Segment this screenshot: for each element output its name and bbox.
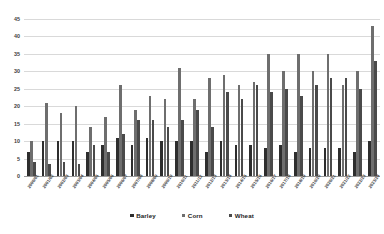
bar-wheat <box>93 145 96 176</box>
bar-wheat <box>226 92 229 176</box>
y-axis-tick-label: 20 <box>14 103 20 109</box>
bar-groups <box>24 19 380 176</box>
x-axis-labels: 2000/012001/022002/032003/042004/052005/… <box>24 178 380 208</box>
bar-wheat <box>315 85 318 176</box>
bar-wheat <box>285 89 288 176</box>
bar-group <box>128 19 143 176</box>
bar-group <box>83 19 98 176</box>
bar-group <box>143 19 158 176</box>
bar-group <box>98 19 113 176</box>
bar-wheat <box>241 99 244 176</box>
x-axis-tick: 2017/18 <box>276 178 291 208</box>
x-axis-tick: 2023/24 <box>365 178 380 208</box>
bar-group <box>350 19 365 176</box>
bar-wheat <box>359 89 362 176</box>
x-axis-tick: 2000/01 <box>24 178 39 208</box>
x-axis-tick: 2012/13 <box>202 178 217 208</box>
bar-group <box>335 19 350 176</box>
bar-group <box>276 19 291 176</box>
x-axis-tick: 2018/19 <box>291 178 306 208</box>
legend-item-corn[interactable]: Corn <box>182 212 203 219</box>
chart-legend: BarleyCornWheat <box>0 212 384 219</box>
x-axis-tick: 2015/16 <box>246 178 261 208</box>
y-axis-tick-label: 40 <box>14 33 20 39</box>
bar-wheat <box>330 78 333 176</box>
bar-wheat <box>345 78 348 176</box>
bar-group <box>172 19 187 176</box>
bar-wheat <box>211 127 214 176</box>
plot-area <box>24 19 380 176</box>
legend-label: Barley <box>136 212 156 219</box>
x-axis-tick: 2021/22 <box>335 178 350 208</box>
y-axis-tick-label: 5 <box>17 156 20 162</box>
x-axis-tick: 2011/12 <box>187 178 202 208</box>
x-axis-tick: 2022/23 <box>350 178 365 208</box>
bar-wheat <box>122 134 125 176</box>
x-axis-tick: 2005/06 <box>98 178 113 208</box>
y-axis-tick-label: 10 <box>14 138 20 144</box>
x-axis-tick: 2003/04 <box>68 178 83 208</box>
y-axis-tick-label: 30 <box>14 68 20 74</box>
x-axis-tick: 2019/20 <box>306 178 321 208</box>
bar-group <box>113 19 128 176</box>
legend-swatch-icon <box>182 214 186 218</box>
legend-swatch-icon <box>229 214 233 218</box>
x-axis-tick: 2020/21 <box>321 178 336 208</box>
y-axis-tick-label: 15 <box>14 121 20 127</box>
bar-wheat <box>167 127 170 176</box>
bar-group <box>291 19 306 176</box>
y-axis-tick-label: 35 <box>14 51 20 57</box>
bar-group <box>54 19 69 176</box>
x-axis-tick: 2014/15 <box>232 178 247 208</box>
x-axis-tick: 2009/10 <box>157 178 172 208</box>
bar-group <box>321 19 336 176</box>
x-axis-tick: 2007/08 <box>128 178 143 208</box>
bar-group <box>306 19 321 176</box>
bar-wheat <box>374 61 377 176</box>
bar-wheat <box>152 120 155 176</box>
x-axis-tick: 2008/09 <box>143 178 158 208</box>
bar-group <box>68 19 83 176</box>
bar-wheat <box>107 152 110 176</box>
x-axis-tick: 2016/17 <box>261 178 276 208</box>
bar-group <box>187 19 202 176</box>
bar-group <box>232 19 247 176</box>
x-axis-tick: 2001/02 <box>39 178 54 208</box>
bar-group <box>261 19 276 176</box>
bar-group <box>365 19 380 176</box>
bar-wheat <box>137 120 140 176</box>
y-axis-tick-label: 25 <box>14 86 20 92</box>
bar-wheat <box>270 92 273 176</box>
x-axis-tick: 2010/11 <box>172 178 187 208</box>
bar-group <box>157 19 172 176</box>
bar-group <box>24 19 39 176</box>
bar-group <box>39 19 54 176</box>
bar-wheat <box>300 96 303 176</box>
x-axis-tick: 2013/14 <box>217 178 232 208</box>
legend-item-barley[interactable]: Barley <box>130 212 156 219</box>
legend-label: Corn <box>188 212 203 219</box>
bar-chart: 051015202530354045 2000/012001/022002/03… <box>0 0 384 234</box>
bar-wheat <box>181 120 184 176</box>
bar-wheat <box>256 85 259 176</box>
y-axis-tick-label: 45 <box>14 16 20 22</box>
legend-label: Wheat <box>235 212 254 219</box>
bar-group <box>202 19 217 176</box>
bar-wheat <box>196 110 199 176</box>
legend-item-wheat[interactable]: Wheat <box>229 212 254 219</box>
y-axis-tick-label: 0 <box>17 173 20 179</box>
x-axis-tick: 2002/03 <box>54 178 69 208</box>
bar-group <box>217 19 232 176</box>
y-axis: 051015202530354045 <box>0 19 20 176</box>
legend-swatch-icon <box>130 214 134 218</box>
x-axis-tick: 2004/05 <box>83 178 98 208</box>
bar-group <box>246 19 261 176</box>
x-axis-tick: 2006/07 <box>113 178 128 208</box>
